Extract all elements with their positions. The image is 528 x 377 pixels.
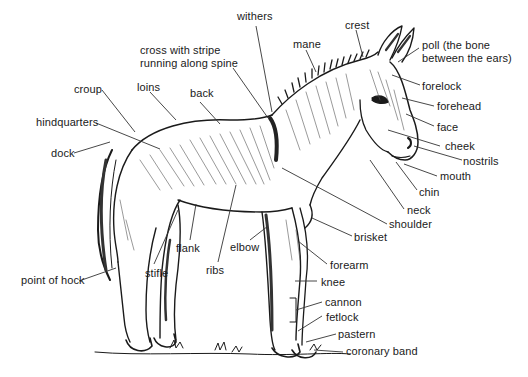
label-dock: dock (51, 147, 75, 160)
label-cannon: cannon (325, 296, 362, 309)
label-coronary-band: coronary band (346, 345, 418, 358)
label-cheek: cheek (445, 140, 475, 153)
label-flank: flank (176, 242, 200, 255)
label-neck: neck (407, 204, 431, 217)
label-forehead: forehead (437, 100, 481, 113)
label-back: back (190, 87, 214, 100)
label-loins: loins (137, 81, 160, 94)
label-knee: knee (321, 276, 345, 289)
label-forelock: forelock (422, 80, 461, 93)
label-mouth: mouth (440, 170, 471, 183)
label-fetlock: fetlock (326, 311, 359, 324)
label-shoulder: shoulder (389, 218, 432, 231)
label-brisket: brisket (354, 231, 387, 244)
label-cross-line1: cross with stripe (140, 44, 221, 57)
label-croup: croup (74, 83, 102, 96)
label-mane: mane (293, 38, 321, 51)
label-ribs: ribs (206, 264, 224, 277)
label-cross-line2: running along spine (140, 57, 238, 70)
label-hindquarters: hindquarters (36, 116, 98, 129)
label-elbow: elbow (230, 241, 259, 254)
label-nostrils: nostrils (463, 155, 499, 168)
label-withers: withers (237, 10, 273, 23)
label-stifle: stifle (145, 267, 168, 280)
label-forearm: forearm (330, 259, 369, 272)
label-point-of-hock: point of hock (21, 274, 85, 287)
label-crest: crest (345, 19, 369, 32)
label-pastern: pastern (338, 328, 375, 341)
donkey-anatomy-diagram: withers cross with stripe running along … (0, 0, 528, 377)
label-chin: chin (419, 186, 440, 199)
label-poll-line1: poll (the bone (422, 39, 490, 52)
label-poll-line2: between the ears) (422, 52, 512, 65)
label-face: face (437, 121, 458, 134)
